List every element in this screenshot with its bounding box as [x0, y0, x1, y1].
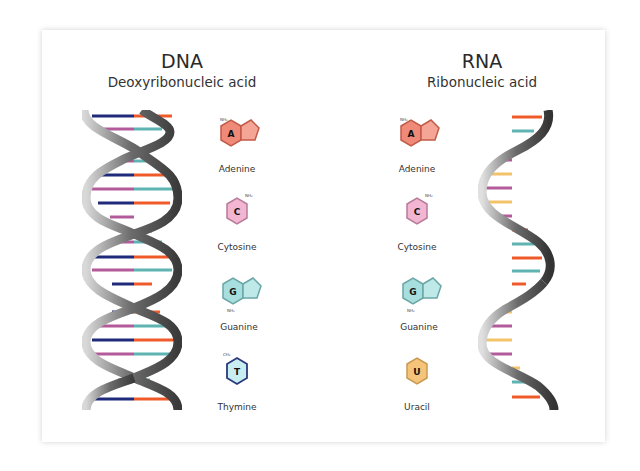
base-label: Guanine	[199, 322, 279, 332]
rna-subtitle: Ribonucleic acid	[372, 74, 592, 90]
rna-base-guanine: G NH₂ Guanine	[379, 270, 459, 332]
base-label: Cytosine	[197, 242, 277, 252]
cytosine-molecule-icon: C NH₂	[207, 190, 267, 240]
base-label: Cytosine	[377, 242, 457, 252]
cytosine-molecule-icon: C NH₂	[387, 190, 447, 240]
rna-title: RNA	[382, 50, 582, 72]
svg-text:T: T	[234, 367, 241, 377]
svg-text:NH₂: NH₂	[245, 193, 253, 198]
svg-text:NH₂: NH₂	[400, 117, 408, 122]
svg-text:NH₂: NH₂	[407, 308, 415, 313]
base-label: Thymine	[197, 402, 277, 412]
guanine-molecule-icon: G NH₂	[209, 270, 269, 320]
svg-text:A: A	[228, 129, 235, 139]
rna-base-cytosine: C NH₂ Cytosine	[377, 190, 457, 252]
svg-text:NH₂: NH₂	[227, 308, 235, 313]
dna-subtitle: Deoxyribonucleic acid	[72, 74, 292, 90]
svg-text:C: C	[414, 207, 421, 217]
base-label: Adenine	[197, 164, 277, 174]
svg-text:CH₃: CH₃	[223, 352, 231, 357]
svg-text:U: U	[413, 367, 420, 377]
adenine-molecule-icon: A NH₂	[207, 112, 267, 162]
uracil-molecule-icon: U	[387, 350, 447, 400]
base-label: Adenine	[377, 164, 457, 174]
rna-single-helix-icon	[478, 110, 578, 410]
rna-base-uracil: U Uracil	[377, 350, 457, 412]
dna-base-guanine: G NH₂ Guanine	[199, 270, 279, 332]
svg-text:G: G	[409, 287, 416, 297]
rna-base-adenine: A NH₂ Adenine	[377, 112, 457, 174]
dna-base-thymine: T CH₃ Thymine	[197, 350, 277, 412]
dna-double-helix-icon	[82, 110, 182, 410]
svg-text:C: C	[234, 207, 241, 217]
base-label: Uracil	[377, 402, 457, 412]
svg-text:NH₂: NH₂	[220, 117, 228, 122]
svg-text:G: G	[229, 287, 236, 297]
svg-text:NH₂: NH₂	[425, 193, 433, 198]
adenine-molecule-icon: A NH₂	[387, 112, 447, 162]
dna-title: DNA	[82, 50, 282, 72]
thymine-molecule-icon: T CH₃	[207, 350, 267, 400]
dna-base-cytosine: C NH₂ Cytosine	[197, 190, 277, 252]
base-label: Guanine	[379, 322, 459, 332]
svg-text:A: A	[408, 129, 415, 139]
dna-base-adenine: A NH₂ Adenine	[197, 112, 277, 174]
guanine-molecule-icon: G NH₂	[389, 270, 449, 320]
